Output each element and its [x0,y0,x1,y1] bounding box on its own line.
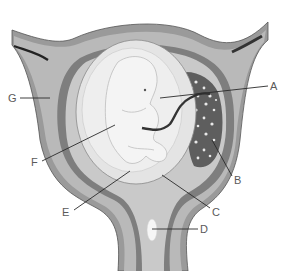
label-f: F [31,156,38,168]
uterus-diagram: A B C D E F G [0,0,282,271]
label-a: A [270,80,278,92]
label-c: C [212,206,220,218]
label-e: E [62,206,69,218]
label-g: G [8,92,17,104]
label-b: B [234,174,241,186]
cervical-plug [147,219,157,241]
embryo-eye [144,89,146,91]
label-d: D [200,223,208,235]
